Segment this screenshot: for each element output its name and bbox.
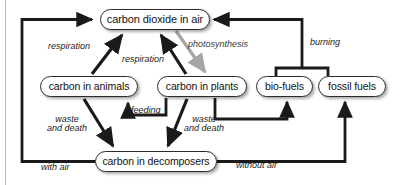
edge-label-waste-and-death-animals: waste and death (47, 115, 87, 134)
node-label-fossil-fuels: fossil fuels (328, 81, 376, 92)
edge-label-feeding: feeding (131, 106, 161, 115)
carbon-cycle-diagram: carbon dioxide in air carbon in animals … (0, 0, 401, 185)
node-label-carbon-in-decomposers: carbon in decomposers (102, 156, 209, 167)
edge-label-photosynthesis: photosynthesis (188, 40, 248, 49)
arrow-respiration-animals (92, 35, 122, 74)
edge-label-respiration-animals: respiration (48, 42, 90, 51)
node-label-carbon-in-animals: carbon in animals (49, 81, 130, 92)
node-carbon-in-decomposers[interactable]: carbon in decomposers (95, 151, 217, 172)
arrow-burning-bracket-left (276, 68, 328, 76)
edge-label-respiration-plants: respiration (122, 55, 164, 64)
node-fossil-fuels[interactable]: fossil fuels (318, 76, 386, 97)
arrow-plants-to-biofuels (215, 98, 287, 119)
node-carbon-dioxide-in-air[interactable]: carbon dioxide in air (100, 9, 210, 30)
node-label-carbon-in-plants: carbon in plants (166, 81, 239, 92)
node-bio-fuels[interactable]: bio-fuels (256, 76, 313, 97)
node-carbon-in-animals[interactable]: carbon in animals (40, 76, 138, 97)
edge-label-without-air: without air (236, 161, 277, 170)
node-carbon-in-plants[interactable]: carbon in plants (157, 76, 247, 97)
edge-label-with-air: with air (41, 163, 70, 172)
node-label-bio-fuels: bio-fuels (265, 81, 304, 92)
arrow-waste-death-animals (84, 99, 113, 146)
arrow-without-air (217, 102, 345, 162)
edge-label-burning: burning (310, 38, 340, 47)
node-label-carbon-dioxide-in-air: carbon dioxide in air (107, 14, 203, 25)
edge-label-waste-and-death-plants: waste and death (184, 115, 224, 134)
